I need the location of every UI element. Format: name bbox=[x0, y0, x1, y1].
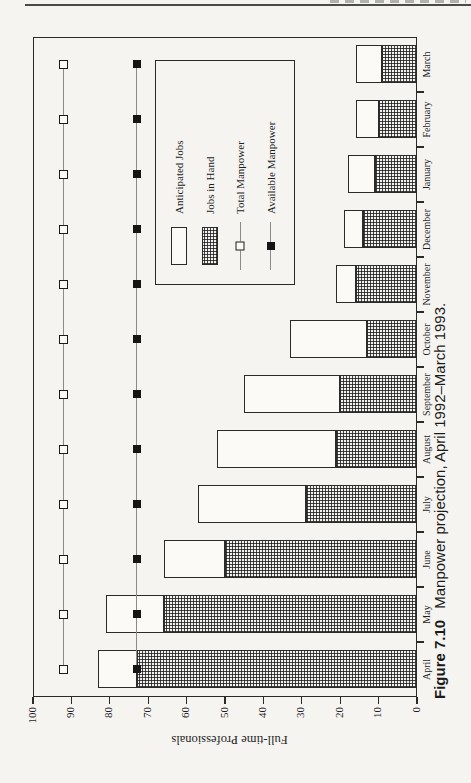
y-tick-label: 60 bbox=[179, 707, 191, 755]
marker-total-manpower bbox=[59, 555, 68, 564]
x-category-label: March bbox=[421, 32, 432, 97]
marker-available-manpower bbox=[133, 556, 141, 564]
bar-jobs-in-hand bbox=[306, 486, 417, 524]
y-tick-label: 70 bbox=[141, 707, 153, 755]
y-tick bbox=[301, 697, 302, 704]
legend-line-open-square-icon bbox=[235, 220, 245, 272]
bar-jobs-in-hand bbox=[336, 431, 417, 469]
y-tick-label: 90 bbox=[64, 707, 76, 755]
marker-total-manpower bbox=[59, 170, 68, 179]
legend-item-jobs-in-hand: Jobs in Hand bbox=[197, 73, 223, 272]
legend-label: Total Manpower bbox=[234, 141, 246, 214]
y-tick-label: 40 bbox=[256, 707, 268, 755]
y-tick bbox=[109, 697, 110, 704]
figure-caption: Figure 7.10Manpower projection, April 19… bbox=[431, 49, 448, 699]
marker-available-manpower bbox=[133, 226, 141, 234]
marker-total-manpower bbox=[59, 665, 68, 674]
bar-anticipated-jobs bbox=[344, 211, 363, 249]
y-tick-label: 30 bbox=[294, 707, 306, 755]
y-axis-title: Full-time Professionals bbox=[140, 732, 320, 747]
line-total-manpower bbox=[63, 65, 64, 670]
marker-total-manpower bbox=[59, 390, 68, 399]
marker-total-manpower bbox=[59, 280, 68, 289]
y-tick-label: 50 bbox=[218, 707, 230, 755]
bar-jobs-in-hand bbox=[375, 156, 417, 194]
marker-available-manpower bbox=[133, 61, 141, 69]
bar-jobs-in-hand bbox=[363, 211, 417, 249]
marker-total-manpower bbox=[59, 445, 68, 454]
bar-jobs-in-hand bbox=[367, 321, 417, 359]
bar-jobs-in-hand bbox=[356, 266, 417, 304]
y-tick bbox=[416, 697, 417, 704]
legend-label: Jobs in Hand bbox=[204, 157, 216, 214]
figure-caption-text: Manpower projection, April 1992–March 19… bbox=[431, 303, 448, 609]
chart-canvas: Full-time Professionals Anticipated Jobs… bbox=[0, 0, 471, 783]
scanned-page: Full-time Professionals Anticipated Jobs… bbox=[0, 0, 471, 783]
y-tick-label: 20 bbox=[333, 707, 345, 755]
marker-total-manpower bbox=[59, 115, 68, 124]
bar-anticipated-jobs bbox=[244, 376, 340, 414]
marker-total-manpower bbox=[59, 500, 68, 509]
legend-item-total-manpower: Total Manpower bbox=[227, 73, 253, 272]
bar-anticipated-jobs bbox=[348, 156, 375, 194]
y-tick bbox=[186, 697, 187, 704]
legend-line-filled-square-icon bbox=[266, 220, 276, 272]
marker-total-manpower bbox=[59, 60, 68, 69]
y-tick-label: 100 bbox=[26, 707, 38, 755]
y-tick bbox=[340, 697, 341, 704]
marker-available-manpower bbox=[133, 666, 141, 674]
y-tick bbox=[263, 697, 264, 704]
marker-available-manpower bbox=[133, 391, 141, 399]
marker-available-manpower bbox=[133, 446, 141, 454]
marker-available-manpower bbox=[133, 116, 141, 124]
bar-jobs-in-hand bbox=[382, 46, 417, 84]
legend-item-anticipated-jobs: Anticipated Jobs bbox=[166, 73, 192, 272]
legend-label: Anticipated Jobs bbox=[173, 140, 185, 214]
marker-available-manpower bbox=[133, 336, 141, 344]
bar-anticipated-jobs bbox=[336, 266, 355, 304]
bar-anticipated-jobs bbox=[164, 541, 225, 579]
marker-total-manpower bbox=[59, 225, 68, 234]
legend-item-available-manpower: Available Manpower bbox=[258, 73, 284, 272]
bar-anticipated-jobs bbox=[290, 321, 367, 359]
y-tick bbox=[378, 697, 379, 704]
bar-anticipated-jobs bbox=[217, 431, 336, 469]
bar-anticipated-jobs bbox=[356, 46, 383, 84]
line-available-manpower bbox=[136, 65, 137, 670]
bar-anticipated-jobs bbox=[198, 486, 306, 524]
y-tick bbox=[32, 697, 33, 704]
bar-jobs-in-hand bbox=[164, 596, 417, 634]
bar-anticipated-jobs bbox=[356, 101, 379, 139]
legend-label: Available Manpower bbox=[265, 122, 277, 214]
bar-jobs-in-hand bbox=[225, 541, 417, 579]
bar-jobs-in-hand bbox=[340, 376, 417, 414]
y-tick-label: 80 bbox=[102, 707, 114, 755]
figure-rotated: Full-time Professionals Anticipated Jobs… bbox=[0, 0, 471, 783]
figure-number: Figure 7.10 bbox=[431, 620, 448, 699]
y-tick bbox=[148, 697, 149, 704]
marker-available-manpower bbox=[133, 501, 141, 509]
bar-jobs-in-hand bbox=[137, 651, 417, 689]
y-tick-label: 10 bbox=[371, 707, 383, 755]
legend: Anticipated Jobs Jobs in Hand Total Manp… bbox=[155, 60, 295, 285]
marker-available-manpower bbox=[133, 281, 141, 289]
bar-jobs-in-hand bbox=[379, 101, 417, 139]
marker-total-manpower bbox=[59, 335, 68, 344]
marker-total-manpower bbox=[59, 610, 68, 619]
y-tick-label: 0 bbox=[410, 707, 422, 755]
bar-anticipated-jobs bbox=[98, 651, 136, 689]
y-tick bbox=[71, 697, 72, 704]
legend-swatch-anticipated-jobs bbox=[171, 220, 187, 272]
marker-available-manpower bbox=[133, 171, 141, 179]
marker-available-manpower bbox=[133, 611, 141, 619]
y-tick bbox=[224, 697, 225, 704]
